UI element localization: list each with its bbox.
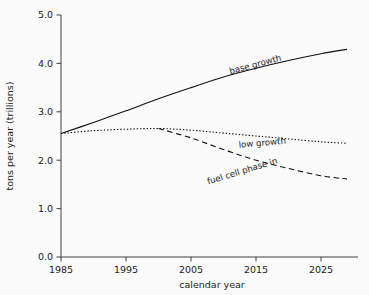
y-axis-tick-label: 0.0 <box>38 251 53 262</box>
y-axis-tick-label: 5.0 <box>38 9 53 20</box>
x-axis-tick-label: 1995 <box>114 264 138 275</box>
x-axis-tick-label: 2025 <box>309 264 333 275</box>
x-axis-tick-label: 1985 <box>49 264 73 275</box>
x-axis-ticks <box>61 257 321 262</box>
axes-group <box>57 15 359 262</box>
series-annotations-group: base growthlow growthfuel cell phase in <box>206 53 286 187</box>
y-axis-tick-label: 4.0 <box>38 58 53 69</box>
y-axis-tick-labels: 0.01.02.03.04.05.0 <box>38 9 53 262</box>
series-line-base-growth <box>61 49 347 133</box>
data-series-group <box>61 49 347 179</box>
x-axis-tick-label: 2015 <box>244 264 268 275</box>
x-axis-title: calendar year <box>179 279 245 290</box>
y-axis-ticks <box>57 15 62 257</box>
y-axis-tick-label: 2.0 <box>38 155 53 166</box>
y-axis-tick-label: 3.0 <box>38 106 53 117</box>
chart-figure: 0.01.02.03.04.05.0 19851995200520152025 … <box>0 0 369 295</box>
x-axis-tick-label: 2005 <box>179 264 203 275</box>
series-label-fuel-cell-phase-in: fuel cell phase in <box>206 155 279 186</box>
y-axis-title: tons per year (trillions) <box>4 82 15 191</box>
series-label-base-growth: base growth <box>228 53 282 76</box>
chart-plot-area: 0.01.02.03.04.05.0 19851995200520152025 … <box>0 0 369 295</box>
x-axis-tick-labels: 19851995200520152025 <box>49 264 333 275</box>
series-line-low-growth <box>61 128 347 143</box>
series-label-low-growth: low growth <box>238 136 286 150</box>
y-axis-tick-label: 1.0 <box>38 203 53 214</box>
